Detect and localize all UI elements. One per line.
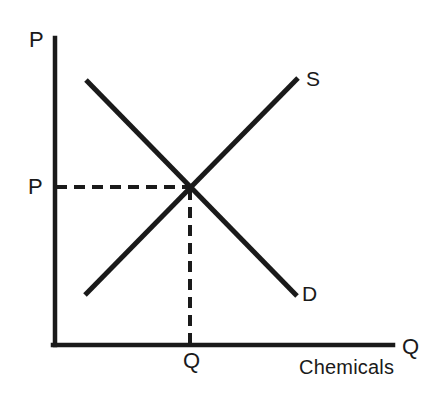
x-axis-label: Q	[402, 336, 419, 358]
equilibrium-quantity-label: Q	[183, 350, 200, 372]
x-axis-caption: Chemicals	[299, 357, 394, 377]
equilibrium-price-label: P	[28, 176, 43, 198]
supply-demand-chart: P P S D Q Q Chemicals	[0, 0, 435, 394]
demand-curve-label: D	[302, 283, 317, 304]
chart-canvas	[0, 0, 435, 394]
supply-curve-label: S	[306, 68, 320, 89]
y-axis-label: P	[29, 29, 44, 51]
